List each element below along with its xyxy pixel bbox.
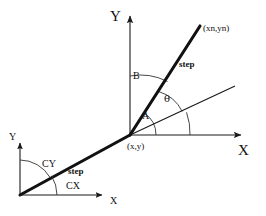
step-label-upper: step — [179, 60, 195, 69]
angle-arc-theta — [159, 92, 183, 112]
angle-cy-label: CY — [42, 159, 56, 169]
main-x-axis-label: X — [238, 143, 249, 158]
angle-b-label: B — [133, 71, 140, 81]
origin-point-label: (x,y) — [127, 142, 144, 151]
angle-theta-label: θ — [164, 94, 170, 104]
step-vector-line — [20, 26, 200, 195]
secondary-x-axis-label: X — [110, 196, 117, 206]
endpoint-label: (xn,yn) — [203, 24, 229, 33]
angle-arc-ray-x — [187, 112, 191, 135]
angle-cx-label: CX — [66, 181, 80, 191]
step-label-lower: step — [68, 167, 84, 176]
secondary-y-axis-label: Y — [9, 132, 16, 142]
main-y-axis-label: Y — [110, 9, 121, 24]
angle-a-label: A — [142, 111, 149, 121]
